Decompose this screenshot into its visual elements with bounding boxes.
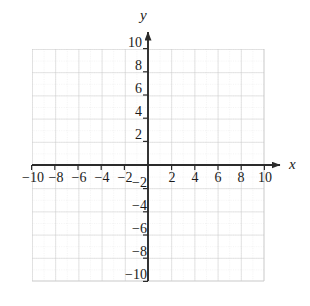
x-tick-label: −8 [49, 171, 64, 185]
y-tick-label: −8 [132, 245, 147, 259]
y-tick-label: −10 [125, 268, 147, 282]
y-tick-label: −2 [132, 176, 147, 190]
x-axis-label: x [289, 157, 296, 172]
x-tick-label: −2 [118, 171, 133, 185]
y-tick-label: 6 [135, 82, 142, 96]
y-tick-label: −4 [132, 199, 147, 213]
coordinate-plane-figure: −10 −8 −6 −4 −2 2 4 6 8 10 10 8 6 4 2 −2… [0, 0, 310, 306]
x-tick-label: 6 [215, 171, 222, 185]
x-tick-label: 8 [238, 171, 245, 185]
y-tick-label: −6 [132, 222, 147, 236]
x-tick-label: 10 [258, 171, 272, 185]
x-tick-label: −6 [72, 171, 87, 185]
coordinate-plane-svg [0, 0, 310, 306]
x-tick-label: −10 [22, 171, 44, 185]
y-tick-label: 10 [128, 36, 142, 50]
x-tick-label: 4 [192, 171, 199, 185]
x-tick-label: 2 [169, 171, 176, 185]
y-axis-label: y [140, 8, 147, 23]
y-tick-label: 2 [135, 128, 142, 142]
x-tick-label: −4 [95, 171, 110, 185]
y-tick-label: 8 [135, 59, 142, 73]
y-tick-label: 4 [135, 105, 142, 119]
